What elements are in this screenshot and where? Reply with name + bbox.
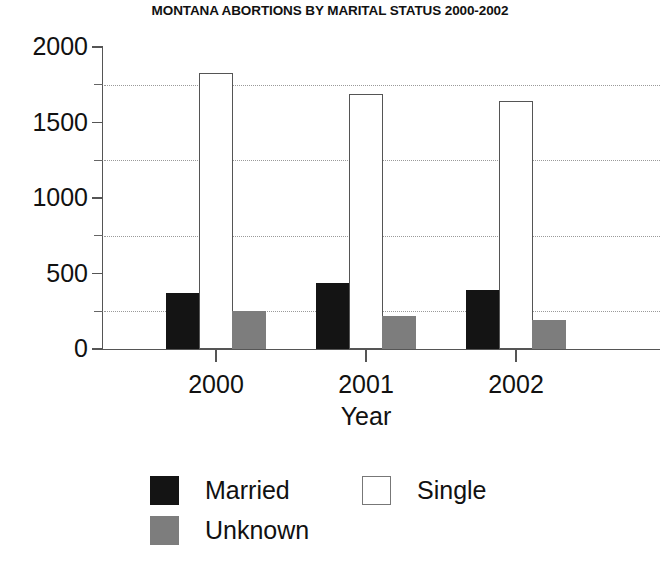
y-axis-label-1000: 1000 xyxy=(0,185,88,210)
bar-2002-married xyxy=(466,290,500,349)
bar-2001-unknown xyxy=(382,316,416,349)
x-axis-line xyxy=(102,349,660,350)
bar-2000-single xyxy=(199,73,233,349)
legend-label-unknown: Unknown xyxy=(205,516,309,544)
legend-row-1: Married Single xyxy=(140,470,570,510)
bar-2002-unknown xyxy=(532,320,566,349)
y-axis-labels: 0500100015002000 xyxy=(0,0,88,584)
y-tick-1500 xyxy=(92,122,103,123)
legend-swatch-married xyxy=(150,476,179,505)
chart-title: MONTANA ABORTIONS BY MARITAL STATUS 2000… xyxy=(0,3,660,18)
x-tick-2002 xyxy=(515,350,516,362)
y-axis-label-0: 0 xyxy=(0,336,88,361)
legend-row-2: Unknown xyxy=(140,510,570,550)
bar-2002-single xyxy=(499,101,533,349)
bar-2000-married xyxy=(166,293,200,349)
y-tick-minor-750 xyxy=(94,235,103,236)
y-tick-500 xyxy=(92,273,103,274)
bar-2001-single xyxy=(349,94,383,349)
x-axis-label-2002: 2002 xyxy=(446,370,586,398)
bar-2001-married xyxy=(316,283,350,349)
y-tick-2000 xyxy=(92,46,103,47)
legend-swatch-single xyxy=(362,476,391,505)
y-tick-minor-250 xyxy=(94,311,103,312)
legend-label-married: Married xyxy=(205,476,290,504)
bar-chart: MONTANA ABORTIONS BY MARITAL STATUS 2000… xyxy=(0,0,660,584)
y-axis-label-1500: 1500 xyxy=(0,110,88,135)
x-axis-title: Year xyxy=(296,402,436,430)
bar-2000-unknown xyxy=(232,311,266,349)
legend-swatch-unknown xyxy=(150,516,179,545)
legend-label-single: Single xyxy=(417,476,487,504)
y-tick-minor-1250 xyxy=(94,160,103,161)
y-tick-minor-1750 xyxy=(94,84,103,85)
plot-area xyxy=(103,47,660,349)
y-tick-1000 xyxy=(92,197,103,198)
legend-item-unknown: Unknown xyxy=(150,510,309,550)
legend-item-single: Single xyxy=(362,470,487,510)
chart-legend: Married Single Unknown xyxy=(140,470,570,566)
x-tick-2000 xyxy=(215,350,216,362)
y-axis-label-500: 500 xyxy=(0,261,88,286)
legend-item-married: Married xyxy=(150,470,290,510)
y-axis-label-2000: 2000 xyxy=(0,34,88,59)
x-tick-2001 xyxy=(365,350,366,362)
y-tick-0 xyxy=(92,348,103,349)
x-axis-label-2000: 2000 xyxy=(146,370,286,398)
x-axis-label-2001: 2001 xyxy=(296,370,436,398)
